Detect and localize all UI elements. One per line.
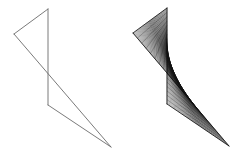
- canvas-background: [0, 0, 246, 161]
- figure-canvas: [0, 0, 246, 161]
- figure-container: [0, 0, 246, 161]
